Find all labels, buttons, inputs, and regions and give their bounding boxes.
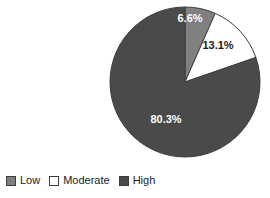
- legend-item-moderate[interactable]: Moderate: [49, 175, 109, 186]
- pie-chart-plot-area: 6.6%13.1%80.3%: [108, 2, 264, 162]
- legend-swatch-low: [6, 176, 16, 186]
- legend-item-high[interactable]: High: [119, 175, 156, 186]
- pie-data-label-high: 80.3%: [150, 113, 181, 125]
- legend-swatch-moderate: [49, 176, 59, 186]
- pie-chart-svg: 6.6%13.1%80.3%: [108, 2, 264, 162]
- pie-data-label-moderate: 13.1%: [202, 39, 233, 51]
- chart-legend: Low Moderate High: [6, 175, 155, 186]
- pie-data-label-low: 6.6%: [177, 12, 202, 24]
- legend-label-moderate: Moderate: [63, 175, 109, 186]
- pie-chart-figure: 6.6%13.1%80.3% Low Moderate High: [0, 0, 270, 198]
- legend-swatch-high: [119, 176, 129, 186]
- legend-item-low[interactable]: Low: [6, 175, 40, 186]
- legend-label-high: High: [133, 175, 156, 186]
- legend-label-low: Low: [20, 175, 40, 186]
- pie-slices-group: [110, 7, 260, 157]
